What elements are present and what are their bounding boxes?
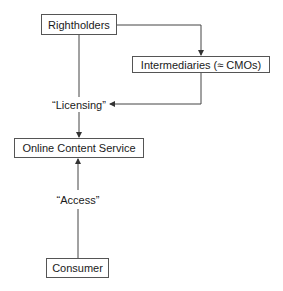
edge-label-licensing: “Licensing”	[51, 99, 107, 111]
node-intermediaries: Intermediaries (≈ CMOs)	[132, 56, 270, 73]
node-online-content-service-label: Online Content Service	[22, 142, 135, 154]
node-online-content-service: Online Content Service	[14, 138, 144, 158]
node-intermediaries-label: Intermediaries (≈ CMOs)	[141, 59, 261, 71]
edge-intermediaries-licensing	[110, 72, 201, 104]
node-rightholders-label: Rightholders	[48, 19, 110, 31]
node-consumer-label: Consumer	[52, 262, 103, 274]
node-rightholders: Rightholders	[41, 14, 117, 35]
edge-label-access: “Access”	[56, 194, 101, 206]
edge-rightholders-intermediaries	[117, 25, 201, 55]
node-consumer: Consumer	[46, 258, 109, 278]
